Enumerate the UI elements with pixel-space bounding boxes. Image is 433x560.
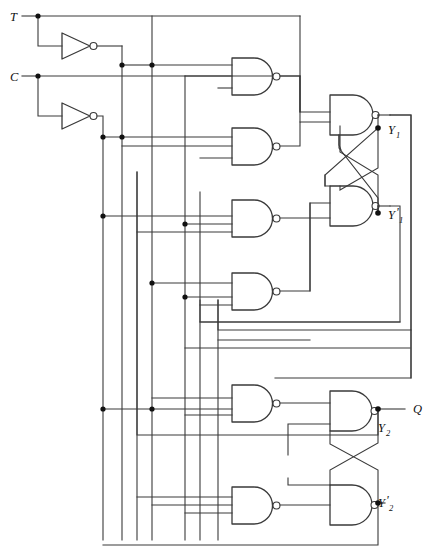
nand-gate-2 [103,122,330,165]
inverter-t-bubble [90,43,97,50]
slave-latch-cross-coupling [330,409,385,503]
nand-gate-7-bubble [273,400,280,407]
junction-dot [182,294,187,299]
wire-inv2-out [97,116,103,137]
y2-subscript: 2 [386,428,391,438]
junction-dot [149,280,154,285]
inverter-c-bubble [90,113,97,120]
nand-gate-4-bubble [273,288,280,295]
junction-dot [100,213,105,218]
state-label-y2: Y 2 [378,421,391,438]
routing-stubs [300,16,411,378]
wire-n10-in1-from-y2 [288,478,330,485]
wire-n9-in2-from-y2p [288,424,330,455]
nand-gate-2-bubble [273,143,280,150]
nand-gate-10 [288,478,378,525]
state-label-y1-prime: Y ' 1 [388,205,403,225]
inverter-t [62,33,122,540]
wire-t-to-inv1 [38,16,62,46]
wire-n2-out [280,122,330,146]
input-label-t: T [10,10,18,24]
circuit-schematic: T C Q Y 1 Y ' 1 Y 2 Y ' 2 [0,0,433,560]
junction-dot [149,62,154,67]
wire-y2p-to-n9 [330,431,378,503]
junction-dot [149,406,154,411]
diagram-labels: T C Q Y 1 Y ' 1 Y 2 Y ' 2 [10,10,422,513]
wire-y2-feedback-up [137,172,378,435]
wire-y1-feedback-down [218,115,411,330]
vertical-buses [137,16,218,540]
wire-y1-to-n6 [340,128,378,190]
state-label-y1: Y 1 [388,123,400,140]
nand-gate-9 [288,391,405,455]
nand-gate-5 [330,95,390,213]
y1p-subscript: 1 [399,215,403,225]
y2p-subscript: 2 [389,503,394,513]
wire-c-to-inv2 [38,76,62,116]
logic-diagram-canvas: T C Q Y 1 Y ' 1 Y 2 Y ' 2 [0,0,433,560]
nand-gate-8-bubble [273,502,280,509]
junction-dot [100,134,105,139]
wire-y2-to-n10 [330,409,378,485]
wire-n1-out [280,76,330,112]
junction-dot [119,62,124,67]
junction-dots [35,13,380,505]
inverter-c [62,103,103,540]
state-label-y2-prime: Y ' 2 [378,493,394,513]
output-label-q: Q [413,402,422,416]
input-wires [22,16,300,116]
junction-dot [119,134,124,139]
junction-dot [182,221,187,226]
nand-gate-6 [325,128,390,226]
nand-gate-8 [137,487,330,524]
junction-dot [100,406,105,411]
junction-dot [35,73,40,78]
input-label-c: C [10,70,19,84]
wire-n4-out [280,203,330,291]
nand-gate-1-bubble [273,73,280,80]
junction-dot-y2 [375,406,381,412]
nand-gate-4 [152,203,330,310]
nand-gate-3-bubble [273,215,280,222]
junction-dot-y1p [375,210,381,216]
wire-n6-cross-from-y1 [325,128,378,186]
junction-dot [35,13,40,18]
y1-subscript: 1 [396,130,400,140]
junction-dot-y1 [375,125,381,131]
